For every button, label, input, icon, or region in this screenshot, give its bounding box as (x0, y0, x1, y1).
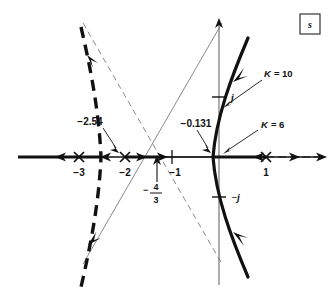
label-gain-lower-k: K (261, 119, 269, 130)
label-centroid-numerator: 4 (153, 182, 158, 192)
axis-label-minus3: −3 (73, 167, 85, 178)
label-gain-upper: K= 10 (264, 68, 293, 79)
label-gain-upper-value: = 10 (274, 68, 293, 79)
label-gain-upper-k: K (264, 68, 272, 79)
root-locus-canvas: −3 −2 −1 1 j −j −2.54 −0.131 K= 10 K= 6 … (0, 0, 335, 292)
label-centroid-denominator: 3 (153, 195, 158, 205)
locus-left-arrow-icon (88, 232, 101, 245)
asymptote-group (83, 23, 222, 264)
label-gain-lower-value: = 6 (271, 119, 284, 130)
label-breakaway-right: −0.131 (181, 118, 212, 129)
svg-text:K= 10: K= 10 (264, 68, 293, 79)
label-centroid: − 4 3 (143, 182, 162, 205)
axis-label-minus-j: −j (231, 192, 240, 203)
root-locus-figure: −3 −2 −1 1 j −j −2.54 −0.131 K= 10 K= 6 … (0, 0, 335, 292)
label-centroid-sign: − (143, 185, 148, 195)
axis-label-minus2: −2 (119, 167, 131, 178)
axis-label-minus1: −1 (169, 167, 181, 178)
label-breakaway-left: −2.54 (77, 116, 103, 127)
label-gain-lower: K= 6 (261, 119, 284, 130)
axis-label-plus1: 1 (263, 167, 269, 178)
s-plane-letter: s (307, 19, 312, 30)
svg-text:K= 6: K= 6 (261, 119, 284, 130)
s-plane-badge: s (300, 14, 320, 34)
